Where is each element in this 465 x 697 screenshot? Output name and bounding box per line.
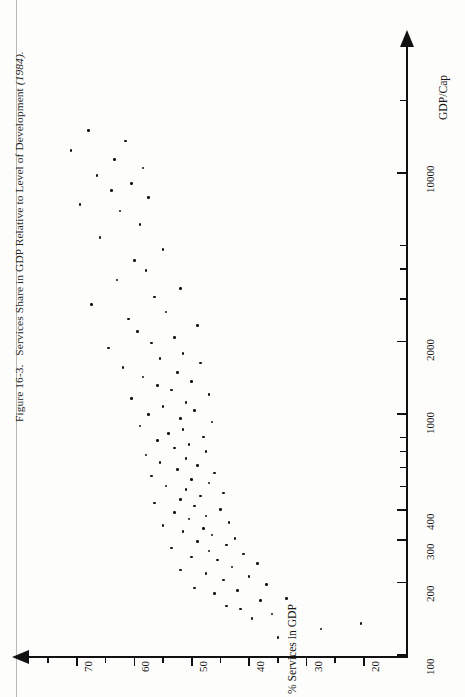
data-point (182, 428, 185, 431)
data-point (251, 617, 254, 620)
services-tick-major (191, 657, 193, 666)
data-point (219, 508, 222, 511)
services-tick-major (306, 657, 308, 666)
data-point (150, 475, 153, 478)
services-tick-label: 20 (369, 661, 381, 672)
data-point (124, 140, 127, 143)
data-point (90, 303, 93, 306)
gdp-axis-line (406, 44, 408, 658)
data-point (222, 492, 225, 495)
data-point (320, 628, 323, 631)
data-point (139, 425, 142, 428)
gdp-tick-label: 400 (424, 513, 436, 530)
data-point (116, 279, 119, 282)
services-tick-minor (220, 657, 222, 663)
data-point (179, 287, 182, 290)
data-point (179, 498, 182, 501)
data-point (193, 409, 196, 412)
data-point (205, 572, 208, 575)
data-point (277, 636, 280, 639)
x-axis-title: GDP/Cap (437, 75, 450, 120)
gdp-tick-label: 2000 (424, 339, 436, 361)
data-point (119, 210, 122, 213)
data-point (159, 461, 162, 464)
gdp-tick-major (397, 582, 406, 584)
data-point (265, 583, 268, 586)
gdp-tick-major (397, 172, 406, 174)
data-point (136, 330, 139, 333)
gdp-tick-label: 1000 (424, 412, 436, 434)
data-point (99, 236, 102, 239)
gdp-tick-minor (400, 268, 406, 270)
data-point (190, 556, 193, 559)
data-point (173, 447, 176, 450)
services-tick-minor (334, 657, 336, 663)
data-point (147, 413, 150, 416)
data-point (213, 472, 216, 475)
services-tick-label: 70 (82, 661, 94, 672)
data-point (133, 259, 136, 262)
gdp-axis-arrow (400, 30, 414, 47)
data-point (127, 318, 130, 321)
data-point (234, 537, 237, 540)
data-point (156, 384, 159, 387)
data-point (242, 553, 245, 556)
data-point (211, 421, 214, 424)
data-point (208, 482, 211, 485)
gdp-tick-major (397, 654, 406, 656)
data-point (196, 324, 199, 327)
data-point (225, 605, 228, 608)
data-point (150, 342, 153, 345)
data-point (167, 432, 170, 435)
gdp-tick-minor (400, 467, 406, 469)
data-point (110, 189, 113, 192)
data-point (79, 203, 82, 206)
data-point (190, 478, 193, 481)
services-tick-major (248, 657, 250, 666)
services-axis-arrow (12, 650, 29, 664)
gdp-tick-major (397, 341, 406, 343)
data-point (216, 559, 219, 562)
data-point (259, 599, 262, 602)
gdp-tick-minor (400, 451, 406, 453)
data-point (162, 524, 165, 527)
services-axis-line (26, 656, 408, 658)
data-point (145, 454, 148, 457)
data-point (130, 182, 133, 185)
data-point (122, 366, 125, 369)
services-tick-minor (105, 657, 107, 663)
data-point (208, 550, 211, 553)
data-point (208, 393, 211, 396)
data-point (202, 436, 205, 439)
data-point (271, 613, 274, 616)
data-point (179, 417, 182, 420)
data-point (239, 608, 242, 611)
gdp-tick-label: 300 (424, 544, 436, 561)
data-point (193, 505, 196, 508)
gdp-tick-minor (400, 437, 406, 439)
data-point (188, 518, 191, 521)
data-point (199, 495, 202, 498)
data-point (107, 347, 110, 350)
scatter-plot: GDP/Cap % Services in GDP 10020030040010… (0, 0, 465, 697)
data-point (211, 534, 214, 537)
data-point (139, 223, 142, 226)
data-point (205, 515, 208, 518)
data-point (170, 389, 173, 392)
data-point (248, 575, 251, 578)
gdp-tick-label: 10000 (424, 165, 436, 193)
data-point (130, 397, 133, 400)
services-tick-major (76, 657, 78, 666)
data-point (145, 269, 148, 272)
data-point (185, 488, 188, 491)
services-tick-minor (47, 657, 49, 663)
data-point (173, 511, 176, 514)
data-point (176, 371, 179, 374)
gdp-tick-major (397, 539, 406, 541)
data-point (162, 405, 165, 408)
services-tick-major (363, 657, 365, 666)
figure-page: Figure 16-3. Services Share in GDP Relat… (0, 0, 465, 697)
data-point (142, 376, 145, 379)
services-tick-minor (162, 657, 164, 663)
services-tick-label: 50 (197, 661, 209, 672)
